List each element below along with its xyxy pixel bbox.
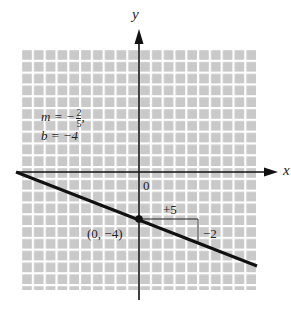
y-axis-label: y bbox=[132, 6, 139, 23]
origin-label: 0 bbox=[143, 178, 150, 194]
coordinate-plane bbox=[0, 0, 291, 311]
intercept-label: b = −4 bbox=[41, 128, 78, 144]
slope-text: m = − bbox=[41, 109, 74, 124]
x-axis-label: x bbox=[283, 162, 290, 179]
slope-label: m = − 2 5 , bbox=[41, 108, 85, 129]
run-label: +5 bbox=[163, 202, 177, 218]
y-intercept-point bbox=[135, 215, 143, 223]
y-axis-arrow-icon bbox=[135, 29, 144, 44]
x-axis-arrow-icon bbox=[264, 168, 278, 177]
point-label: (0, −4) bbox=[87, 226, 123, 242]
rise-label: −2 bbox=[203, 226, 217, 242]
